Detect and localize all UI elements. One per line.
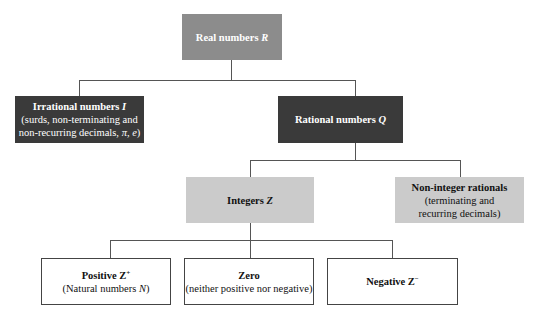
connector-to-zero xyxy=(250,240,251,258)
connector-to-irrational xyxy=(79,80,80,96)
node-negative-integers: Negative Z− xyxy=(327,258,458,305)
positive-subtitle: (Natural numbers xyxy=(63,283,139,294)
non-integer-desc-line2: recurring decimals) xyxy=(419,207,501,220)
connector-to-integers xyxy=(250,160,251,177)
positive-subtitle-end: ) xyxy=(146,283,150,294)
node-zero: Zero (neither positive nor negative) xyxy=(184,258,314,305)
positive-sup: + xyxy=(126,268,130,276)
connector-level2-bar xyxy=(250,160,461,161)
node-rational-numbers: Rational numbers Q xyxy=(278,96,403,143)
node-non-integer-rationals: Non-integer rationals (terminating and r… xyxy=(395,177,524,223)
connector-rational-down xyxy=(355,143,356,160)
negative-sup: − xyxy=(415,275,419,283)
connector-integers-down xyxy=(250,223,251,240)
zero-subtitle: (neither positive nor negative) xyxy=(186,282,313,295)
connector-level3-bar xyxy=(110,240,393,241)
real-numbers-title: Real numbers xyxy=(196,32,259,43)
node-integers: Integers Z xyxy=(186,177,314,223)
positive-title: Positive Z xyxy=(82,270,127,281)
irrational-symbols: π, e xyxy=(122,127,137,138)
integers-title: Integers xyxy=(227,195,264,206)
connector-level1-bar xyxy=(79,80,356,81)
node-real-numbers: Real numbers R xyxy=(182,14,282,60)
node-irrational-numbers: Irrational numbers I (surds, non-termina… xyxy=(15,96,144,143)
irrational-title: Irrational numbers xyxy=(33,101,120,112)
connector-root-down xyxy=(231,60,232,80)
irrational-desc-line2: non-recurring decimals, xyxy=(19,127,122,138)
irrational-desc-end: ) xyxy=(137,127,141,138)
irrational-symbol: I xyxy=(122,101,126,112)
non-integer-title: Non-integer rationals xyxy=(412,181,508,194)
non-integer-desc-line1: (terminating and xyxy=(425,194,495,207)
connector-to-positive xyxy=(110,240,111,258)
irrational-desc-line1: (surds, non-terminating and xyxy=(21,113,137,126)
positive-subtitle-symbol: N xyxy=(139,283,146,294)
zero-title: Zero xyxy=(238,269,259,282)
rational-symbol: Q xyxy=(378,114,386,125)
connector-to-negative xyxy=(392,240,393,258)
integers-symbol: Z xyxy=(266,195,272,206)
node-positive-integers: Positive Z+ (Natural numbers N) xyxy=(41,258,171,305)
connector-to-non-integer xyxy=(460,160,461,177)
connector-to-rational xyxy=(355,80,356,96)
negative-title: Negative Z xyxy=(366,276,415,287)
rational-title: Rational numbers xyxy=(295,114,376,125)
real-numbers-symbol: R xyxy=(261,32,268,43)
